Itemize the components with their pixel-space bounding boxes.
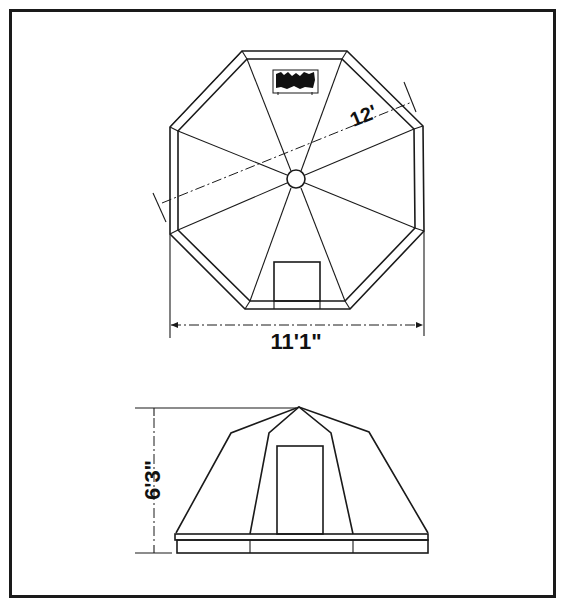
front-panel bbox=[250, 407, 353, 534]
tent-diagram: 12' 11'1" 6'3" bbox=[0, 0, 561, 608]
plan-view: 12' 11'1" bbox=[153, 51, 424, 354]
door-plan bbox=[274, 262, 320, 301]
width-label: 11'1" bbox=[270, 329, 321, 354]
inner-octagon bbox=[178, 59, 415, 301]
tent-silhouette bbox=[176, 407, 428, 533]
floor-band bbox=[175, 534, 428, 540]
center-hub bbox=[287, 170, 305, 188]
width-dimension bbox=[170, 231, 424, 338]
floor-base bbox=[177, 540, 428, 553]
door-elevation bbox=[277, 446, 323, 534]
logo-icon bbox=[273, 70, 318, 95]
elevation-view: 6'3" bbox=[135, 407, 428, 553]
height-label: 6'3" bbox=[140, 460, 165, 500]
